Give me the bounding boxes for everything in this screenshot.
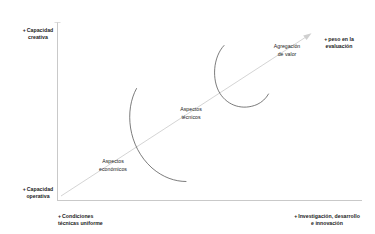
plus-marker-icon: + — [294, 213, 297, 219]
diagonal-label-peso-en-la-evaluacion-text: peso en la evaluación — [325, 36, 353, 50]
group-label-aspectos-tecnicos: Aspectos técnicos — [165, 106, 217, 121]
axis-label-capacidad-operativa: +Capacidad operativa — [10, 178, 66, 201]
axis-label-condiciones-tecnicas-uniforme-text: Condiciones técnicas uniforme — [58, 213, 103, 227]
axis-label-capacidad-creativa: +Capacidad creativa — [10, 19, 66, 42]
axis-label-capacidad-creativa-text: Capacidad creativa — [27, 27, 53, 41]
plus-marker-icon: + — [23, 27, 26, 33]
axis-label-investigacion-desarrollo-innovacion: +Investigación, desarrollo e innovación — [279, 205, 375, 228]
diagram-root: +Capacidad creativa +Capacidad operativa… — [0, 0, 375, 234]
plus-marker-icon: + — [58, 213, 61, 219]
group-label-agregacion-de-valor: Agregación de valor — [258, 43, 316, 58]
diagonal-label-peso-en-la-evaluacion: +peso en la evaluación — [308, 28, 370, 51]
axis-label-condiciones-tecnicas-uniforme: +Condiciones técnicas uniforme — [58, 205, 132, 228]
group-label-aspectos-economicos: Aspectos económicos — [84, 158, 142, 173]
plus-marker-icon: + — [23, 186, 26, 192]
plus-marker-icon: + — [324, 36, 327, 42]
axis-label-capacidad-operativa-text: Capacidad operativa — [26, 186, 53, 200]
axis-label-investigacion-desarrollo-innovacion-text: Investigación, desarrollo e innovación — [298, 213, 360, 227]
